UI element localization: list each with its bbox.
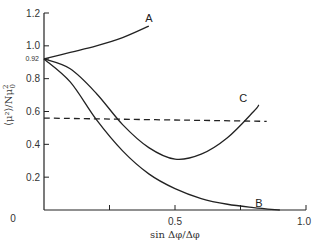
curve-c — [44, 59, 259, 159]
y-axis-title-sub: 0 — [9, 84, 17, 88]
y-tick-label: 1.2 — [26, 8, 40, 19]
curve-label-c: C — [239, 92, 247, 104]
curve-label-a: A — [145, 12, 153, 24]
dashed-reference-line — [44, 118, 267, 121]
x-axis-title: sin Δφ/Δφ — [150, 229, 200, 240]
y-tick-label: 0 — [10, 213, 16, 224]
curve-a — [44, 26, 149, 59]
y-tick-label: 1.0 — [26, 40, 40, 51]
y-tick-label: 0.8 — [26, 73, 40, 84]
chart: 00.20.40.60.80.921.01.20.51.0 ACBsin Δφ/… — [0, 0, 314, 247]
y-tick-label: 0.92 — [25, 55, 39, 62]
x-tick-label: 0.5 — [168, 216, 182, 227]
y-axis-title: ⟨μ²⟩/Nμ20 — [2, 84, 17, 126]
labels: ACBsin Δφ/Δφ⟨μ²⟩/Nμ20 — [2, 12, 263, 240]
curve-b — [44, 59, 280, 210]
curve-label-b: B — [255, 197, 262, 209]
y-tick-label: 0.6 — [26, 106, 40, 117]
y-tick-label: 0.2 — [26, 172, 40, 183]
axes: 00.20.40.60.80.921.01.20.51.0 — [10, 8, 311, 228]
x-tick-label: 1.0 — [297, 216, 311, 227]
y-tick-label: 0.4 — [26, 139, 40, 150]
series — [44, 26, 280, 210]
